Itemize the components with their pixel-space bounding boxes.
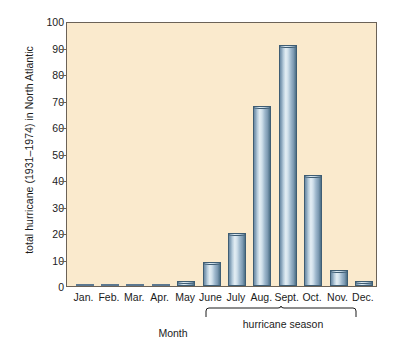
bar-jan [76, 284, 94, 287]
hurricane-bar-chart: total hurricane (1931–1974) in North Atl… [0, 0, 400, 349]
y-tick-label: 0 [34, 281, 64, 293]
bar-july [228, 233, 246, 286]
bar-mar [126, 284, 144, 287]
bar-june [203, 262, 221, 286]
bar-apr [152, 284, 170, 287]
plot-area [66, 22, 377, 287]
bar-sept [279, 45, 297, 286]
bar-may [177, 281, 195, 286]
x-axis-title: Month [143, 327, 203, 339]
bar-oct [304, 175, 322, 286]
bar-dec [355, 281, 373, 286]
hurricane-season-label: hurricane season [228, 318, 338, 330]
bar-feb [101, 284, 119, 287]
bars-container [67, 23, 376, 286]
hurricane-season-bracket-icon [205, 306, 357, 317]
y-tick-label: 100 [34, 16, 64, 28]
x-tick-label: Dec. [346, 291, 380, 303]
bar-aug [253, 106, 271, 286]
bar-nov [330, 270, 348, 286]
